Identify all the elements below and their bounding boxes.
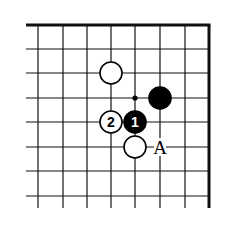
white-stone	[124, 136, 146, 158]
go-board-diagram: 21 A	[0, 0, 231, 239]
stone-move-number: 2	[107, 114, 115, 130]
white-stone	[100, 62, 122, 84]
stone-move-number: 1	[131, 114, 139, 130]
board-annotations: A	[153, 137, 167, 158]
annotation-label-A: A	[153, 137, 167, 158]
black-stone-1: 1	[124, 111, 146, 133]
white-stone-2: 2	[100, 111, 122, 133]
svg-text:A: A	[153, 137, 167, 158]
black-stone	[149, 87, 171, 109]
board-markers	[132, 95, 137, 100]
point-marker-dot	[132, 95, 137, 100]
